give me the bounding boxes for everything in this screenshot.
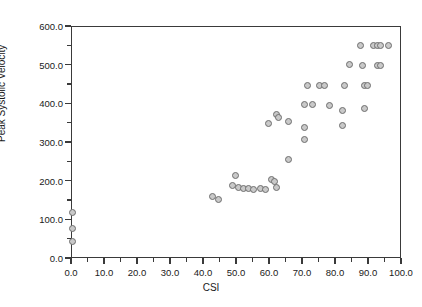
- data-point: [265, 120, 272, 127]
- data-point: [339, 122, 346, 129]
- data-point: [377, 62, 384, 69]
- y-axis: 0.0100.0200.0300.0400.0500.0600.0: [71, 26, 72, 258]
- x-tick-label: 10.0: [95, 267, 114, 278]
- y-tick-minor: [67, 122, 71, 123]
- data-point: [275, 114, 282, 121]
- data-point: [301, 101, 308, 108]
- data-point: [357, 42, 364, 49]
- x-tick-major: [136, 258, 137, 264]
- x-tick-label: 100.0: [389, 267, 413, 278]
- y-tick-minor: [67, 199, 71, 200]
- data-point: [215, 196, 222, 203]
- x-tick-label: 0.0: [64, 267, 77, 278]
- x-tick-label: 50.0: [227, 267, 246, 278]
- y-tick-major: [65, 25, 71, 26]
- x-tick-label: 90.0: [359, 267, 378, 278]
- data-point: [309, 101, 316, 108]
- x-tick-major: [400, 258, 401, 264]
- x-tick-major: [367, 258, 368, 264]
- data-point: [69, 225, 76, 232]
- x-tick-label: 70.0: [293, 267, 312, 278]
- y-tick-minor: [67, 161, 71, 162]
- data-point: [285, 156, 292, 163]
- y-tick-major: [65, 103, 71, 104]
- data-point: [304, 82, 311, 89]
- x-tick-label: 20.0: [128, 267, 147, 278]
- data-point: [273, 184, 280, 191]
- data-point: [285, 118, 292, 125]
- x-tick-major: [103, 258, 104, 264]
- y-tick-label: 0.0: [50, 253, 63, 264]
- x-tick-minor: [219, 258, 220, 262]
- x-tick-major: [202, 258, 203, 264]
- data-point: [301, 124, 308, 131]
- data-point: [361, 105, 368, 112]
- data-point: [232, 172, 239, 179]
- data-point: [377, 42, 384, 49]
- y-tick-label: 600.0: [39, 21, 63, 32]
- data-point: [321, 82, 328, 89]
- y-tick-major: [65, 141, 71, 142]
- x-axis-title: CSI: [0, 282, 422, 293]
- plot-area: [71, 26, 401, 258]
- x-tick-label: 60.0: [260, 267, 279, 278]
- data-point: [385, 42, 392, 49]
- x-tick-major: [301, 258, 302, 264]
- x-tick-minor: [252, 258, 253, 262]
- x-tick-label: 40.0: [194, 267, 213, 278]
- x-tick-minor: [120, 258, 121, 262]
- x-tick-minor: [186, 258, 187, 262]
- data-point: [364, 82, 371, 89]
- data-point: [301, 136, 308, 143]
- y-tick-label: 100.0: [39, 214, 63, 225]
- scatter-chart-figure: 0.0100.0200.0300.0400.0500.0600.0 0.010.…: [0, 0, 422, 307]
- x-tick-minor: [318, 258, 319, 262]
- x-tick-minor: [351, 258, 352, 262]
- data-point: [326, 102, 333, 109]
- data-point: [359, 62, 366, 69]
- x-tick-label: 30.0: [161, 267, 180, 278]
- y-tick-minor: [67, 45, 71, 46]
- y-tick-major: [65, 64, 71, 65]
- data-point: [339, 107, 346, 114]
- y-tick-label: 200.0: [39, 175, 63, 186]
- y-tick-label: 300.0: [39, 137, 63, 148]
- x-tick-major: [169, 258, 170, 264]
- x-axis: 0.010.020.030.040.050.060.070.080.090.01…: [71, 258, 401, 259]
- data-point: [250, 186, 257, 193]
- x-tick-major: [70, 258, 71, 264]
- data-point: [262, 186, 269, 193]
- y-tick-major: [65, 219, 71, 220]
- y-axis-title: Peak Systolic Velocity: [0, 45, 7, 142]
- x-tick-minor: [384, 258, 385, 262]
- x-tick-major: [235, 258, 236, 264]
- data-point: [69, 209, 76, 216]
- x-tick-minor: [285, 258, 286, 262]
- x-tick-minor: [87, 258, 88, 262]
- x-tick-major: [268, 258, 269, 264]
- y-tick-minor: [67, 83, 71, 84]
- data-point: [341, 82, 348, 89]
- y-tick-major: [65, 180, 71, 181]
- y-tick-label: 500.0: [39, 59, 63, 70]
- y-tick-minor: [67, 238, 71, 239]
- x-tick-label: 80.0: [326, 267, 345, 278]
- x-tick-major: [334, 258, 335, 264]
- y-tick-label: 400.0: [39, 98, 63, 109]
- data-point: [346, 61, 353, 68]
- x-tick-minor: [153, 258, 154, 262]
